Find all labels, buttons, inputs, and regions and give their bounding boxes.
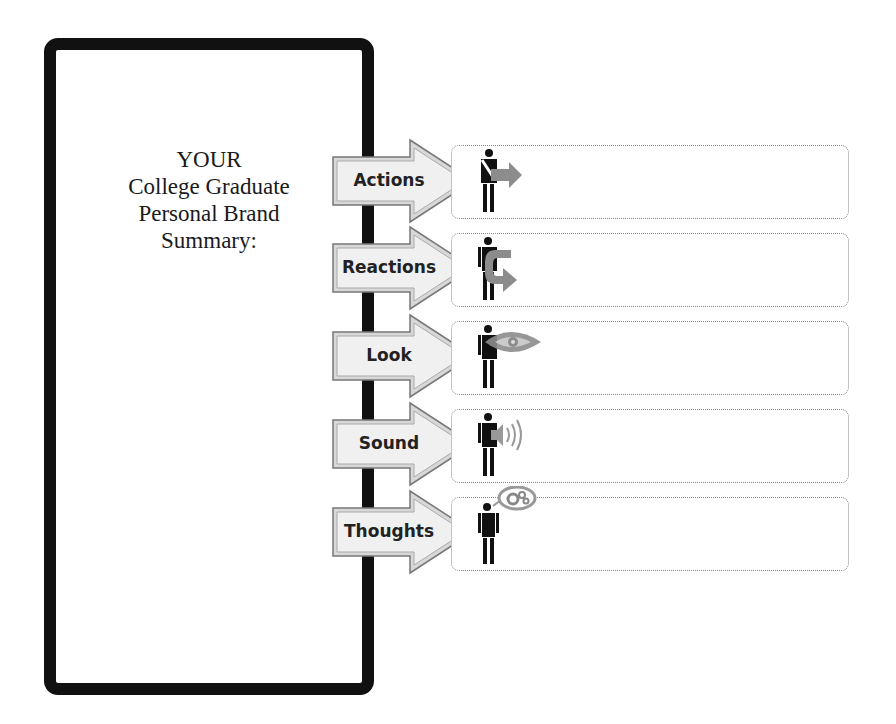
person-thought-bubble-icon xyxy=(475,486,555,566)
person-speaker-icon xyxy=(475,412,535,478)
brand-summary-frame: YOUR College Graduate Personal Brand Sum… xyxy=(44,38,374,695)
summary-title-line-1: YOUR xyxy=(56,146,362,173)
arrow-label-actions: Actions xyxy=(334,170,444,190)
arrow-label-sound: Sound xyxy=(334,433,444,453)
arrow-label-thoughts: Thoughts xyxy=(334,521,444,541)
summary-title-line-4: Summary: xyxy=(56,227,362,254)
person-u-turn-arrow-icon xyxy=(475,236,525,302)
arrow-label-look: Look xyxy=(334,345,444,365)
person-arrow-right-icon xyxy=(475,148,525,214)
person-eye-icon xyxy=(475,324,545,390)
summary-title-line-3: Personal Brand xyxy=(56,200,362,227)
summary-title-line-2: College Graduate xyxy=(56,173,362,200)
summary-title: YOUR College Graduate Personal Brand Sum… xyxy=(56,146,362,254)
arrow-label-reactions: Reactions xyxy=(334,257,444,277)
